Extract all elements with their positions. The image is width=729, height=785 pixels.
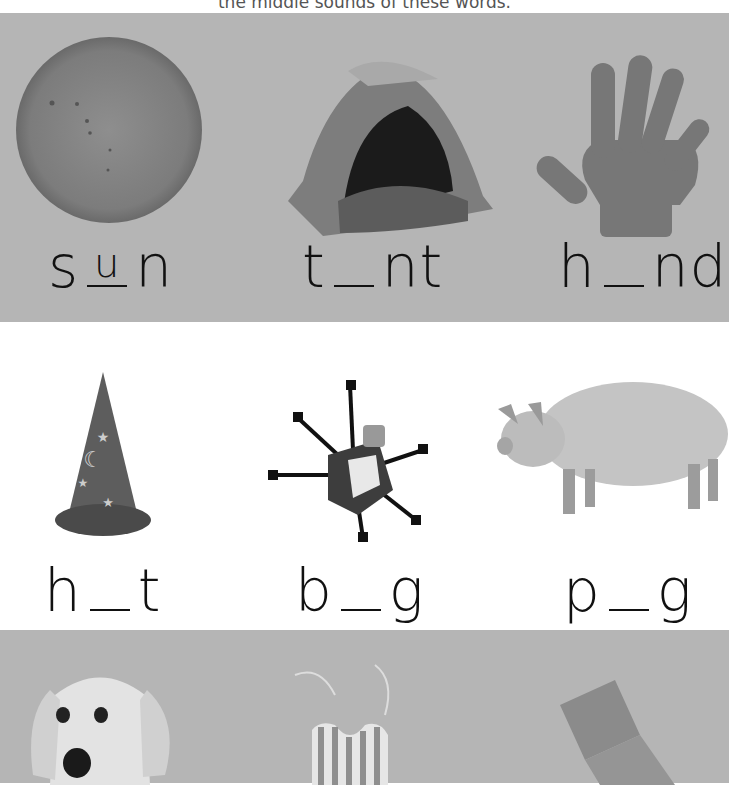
instruction-title: the middle sounds of these words. xyxy=(0,0,729,13)
tent-picture xyxy=(268,51,498,241)
word-start: h xyxy=(558,238,596,296)
svg-text:☾: ☾ xyxy=(83,447,103,472)
word-tent: tnt xyxy=(302,238,443,296)
word-start: t xyxy=(302,238,326,296)
answer-blank[interactable] xyxy=(334,241,374,287)
dog-picture xyxy=(15,665,185,785)
word-start: b xyxy=(295,562,333,620)
word-end: nd xyxy=(652,238,728,296)
answer-blank[interactable] xyxy=(609,565,649,611)
bib-picture xyxy=(290,665,425,785)
word-start: s xyxy=(48,238,79,296)
answer-blank[interactable]: u xyxy=(87,241,127,287)
answer-blank[interactable] xyxy=(90,565,130,611)
word-bug: bg xyxy=(295,562,425,620)
svg-text:★: ★ xyxy=(102,495,114,510)
answer-blank[interactable] xyxy=(341,565,381,611)
pig-picture xyxy=(493,374,729,519)
word-end: t xyxy=(138,562,162,620)
bug-picture xyxy=(268,380,433,540)
word-end: g xyxy=(389,562,425,620)
word-start: p xyxy=(563,562,601,620)
svg-text:★: ★ xyxy=(97,429,110,445)
hat-picture: ★ ☾ ★ ★ xyxy=(53,372,153,537)
row-2: ★ ☾ ★ ★ ht bg pg xyxy=(0,322,729,630)
answer-blank[interactable] xyxy=(604,241,644,287)
word-pig: pg xyxy=(563,562,693,620)
row-1: sun tnt hnd xyxy=(0,13,729,322)
answer-fill: u xyxy=(87,243,127,283)
word-end: n xyxy=(135,238,173,296)
word-start: h xyxy=(44,562,82,620)
word-hat: ht xyxy=(44,562,162,620)
sock-picture xyxy=(540,675,729,785)
row-3 xyxy=(0,630,729,783)
word-end: g xyxy=(657,562,693,620)
svg-text:★: ★ xyxy=(78,476,89,490)
sun-picture xyxy=(15,36,203,224)
word-sun: sun xyxy=(48,238,173,296)
hand-picture xyxy=(545,55,715,240)
word-hand: hnd xyxy=(558,238,727,296)
word-end: nt xyxy=(382,238,444,296)
